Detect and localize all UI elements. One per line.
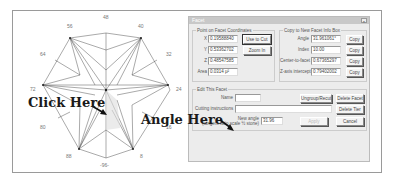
click-here-callout: Click Here [28,95,105,110]
point-group-label: Point on Facet Coordinates [196,28,253,33]
new-angle-field[interactable]: 31.96 [261,117,283,125]
degree-label-56: 56 [67,23,73,29]
z-axis-intercept-label: Z-axis intercept [280,69,309,74]
copy-z-axis-intercept-button[interactable]: Copy [346,68,363,77]
degree-label-64: 64 [40,51,46,57]
x-coordinate-field[interactable]: 0.19588840 [208,35,238,43]
facet-dialog: Facet × Point on Facet Coordinates X 0.1… [188,16,370,162]
angle-label: Angle [280,36,309,41]
point-coordinates-group: Point on Facet Coordinates X 0.19588840 … [192,30,275,82]
cutting-instructions-field[interactable] [235,105,332,113]
use-to-cut-button[interactable]: Use to Cut [243,35,271,44]
degree-label-96: -96- [100,162,109,168]
name-field[interactable] [235,94,261,102]
degree-label-24: 24 [176,86,182,92]
angle-field[interactable]: 31.961061° [311,35,341,43]
index-field[interactable]: 10.00 [311,46,341,54]
apply-button[interactable]: Apply [300,117,328,126]
cutting-instructions-label: Cutting instructions [195,106,233,111]
degree-label-48: 48 [103,14,109,20]
degree-label-32: 32 [166,51,172,57]
name-label: Name [193,95,233,100]
degree-label-72: 72 [30,86,36,92]
z-coordinate-field[interactable]: 0.48547585 [208,57,238,65]
copy-group-label: Copy to New Facet Info Box [283,28,341,33]
degree-label-88: 88 [66,153,72,159]
area-label: Area [193,69,207,74]
area-field[interactable]: 0.0314 µ² [208,68,238,76]
center-to-facet-field[interactable]: 0.67365297 [311,57,341,65]
x-label: X [197,36,207,41]
y-label: Y [197,47,207,52]
z-axis-intercept-field[interactable]: 0.79402002 [311,68,341,76]
degree-label-8: 8 [140,153,143,159]
z-label: Z [197,58,207,63]
degree-label-80: 80 [40,124,46,130]
degree-label-40: 40 [138,23,144,29]
y-coordinate-field[interactable]: 0.53362702 [208,46,238,54]
copy-center-to-facet-button[interactable]: Copy [346,57,363,66]
delete-facet-button[interactable]: Delete Facet [336,94,364,103]
copy-index-button[interactable]: Copy [346,46,363,55]
ungroup-recut-button[interactable]: Ungroup/Recut [300,94,332,103]
index-label: Index [280,47,309,52]
dialog-title: Facet [192,17,205,24]
edit-group-label: Edit This Facet [196,87,228,92]
copy-angle-button[interactable]: Copy [346,35,363,44]
angle-here-callout: Angle Here [141,112,223,127]
dialog-titlebar[interactable]: Facet × [189,17,369,24]
copy-info-group: Copy to New Facet Info Box Angle 31.9610… [279,30,367,82]
delete-tier-button[interactable]: Delete Tier [336,105,364,114]
close-icon[interactable]: × [361,18,367,23]
center-to-facet-label: Center-to-facet [280,58,309,63]
cancel-button[interactable]: Cancel [336,117,364,126]
zoom-in-button[interactable]: Zoom In [243,46,271,55]
